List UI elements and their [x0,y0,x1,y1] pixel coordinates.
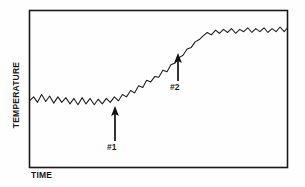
annotation-label-1: #1 [107,142,116,152]
y-axis-label: TEMPERATURE [9,40,23,150]
x-axis-label: TIME [31,170,52,180]
temperature-time-line-chart [0,0,305,187]
chart-figure: TEMPERATURE TIME #1 #2 [0,0,305,187]
annotation-label-2: #2 [170,82,179,92]
chart-background [0,0,305,187]
